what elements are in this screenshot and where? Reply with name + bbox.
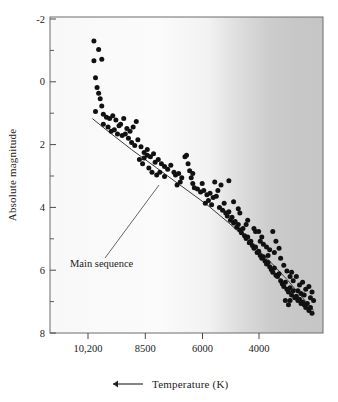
- star-data-point: [134, 119, 139, 124]
- star-data-point: [151, 151, 156, 156]
- star-data-point: [305, 301, 310, 306]
- y-tick-label: 8: [40, 328, 45, 339]
- star-data-point: [165, 167, 170, 172]
- y-tick-label: 2: [40, 139, 45, 150]
- star-data-point: [99, 103, 104, 108]
- star-data-point: [128, 129, 133, 134]
- star-data-point: [288, 298, 293, 303]
- star-data-point: [289, 270, 294, 275]
- x-tick-label: 10,200: [74, 343, 103, 354]
- star-data-point: [291, 288, 296, 293]
- star-data-point: [311, 298, 316, 303]
- star-data-point: [131, 125, 136, 130]
- star-data-point: [278, 256, 283, 261]
- star-data-point: [244, 222, 249, 227]
- star-data-point: [222, 201, 227, 206]
- star-data-point: [258, 239, 263, 244]
- x-tick-label: 6000: [192, 343, 213, 354]
- star-data-point: [226, 178, 231, 183]
- star-data-point: [291, 278, 296, 283]
- y-tick-label: 6: [40, 265, 45, 276]
- star-data-point: [135, 137, 140, 142]
- star-data-point: [201, 188, 206, 193]
- star-data-point: [267, 247, 272, 252]
- y-tick-label: 4: [40, 202, 46, 213]
- star-data-point: [175, 182, 180, 187]
- star-data-point: [237, 211, 242, 216]
- star-data-point: [115, 132, 120, 137]
- star-data-point: [277, 246, 282, 251]
- star-data-point: [106, 125, 111, 130]
- star-data-point: [140, 161, 145, 166]
- star-data-point: [240, 226, 245, 231]
- star-data-point: [91, 38, 96, 43]
- star-data-point: [96, 91, 101, 96]
- x-axis-tick-labels: 10,200 8500 6000 4000: [74, 343, 270, 354]
- star-data-point: [209, 202, 214, 207]
- y-axis-tick-labels: -2 0 2 4 6 8: [36, 14, 46, 339]
- star-data-point: [91, 58, 96, 63]
- star-data-point: [245, 235, 250, 240]
- star-data-point: [300, 280, 305, 285]
- star-data-point: [284, 268, 289, 273]
- star-data-point: [212, 180, 217, 185]
- x-tick-label: 8500: [135, 343, 156, 354]
- star-data-point: [139, 144, 144, 149]
- star-data-point: [219, 182, 224, 187]
- star-data-point: [156, 157, 161, 162]
- star-data-point: [310, 311, 315, 316]
- hr-diagram-figure: -2 0 2 4 6 8 10,200 8500 6000 4000 Absol…: [0, 0, 338, 402]
- star-data-point: [184, 153, 189, 158]
- star-data-point: [93, 109, 98, 114]
- x-tick-label: 4000: [249, 343, 270, 354]
- star-data-point: [126, 136, 131, 141]
- x-axis-ticks: [88, 333, 259, 339]
- y-tick-label: 0: [40, 76, 45, 87]
- star-data-point: [231, 199, 236, 204]
- star-data-point: [272, 250, 277, 255]
- star-data-point: [253, 244, 258, 249]
- star-data-point: [145, 147, 150, 152]
- star-data-point: [281, 263, 286, 268]
- star-data-point: [146, 165, 151, 170]
- main-sequence-label: Main sequence: [70, 258, 134, 269]
- star-data-point: [101, 122, 106, 127]
- star-data-point: [230, 215, 235, 220]
- star-data-point: [118, 122, 123, 127]
- star-data-point: [236, 222, 241, 227]
- star-data-point: [272, 266, 277, 271]
- star-data-point: [266, 253, 271, 258]
- star-data-point: [294, 274, 299, 279]
- x-axis-title: Temperature (K): [152, 378, 229, 391]
- star-data-point: [251, 226, 256, 231]
- star-data-point: [95, 85, 100, 90]
- star-data-point: [98, 96, 103, 101]
- star-data-point: [306, 284, 311, 289]
- star-data-point: [96, 47, 101, 52]
- star-data-point: [145, 153, 150, 158]
- star-data-point: [310, 290, 315, 295]
- temperature-decreasing-arrow-icon: [113, 381, 143, 388]
- star-data-point: [93, 75, 98, 80]
- star-data-point: [273, 239, 278, 244]
- star-data-point: [110, 113, 115, 118]
- star-data-point: [270, 229, 275, 234]
- star-data-point: [112, 127, 117, 132]
- star-data-point: [113, 117, 118, 122]
- star-data-point: [132, 143, 137, 148]
- star-data-point: [137, 157, 142, 162]
- star-data-point: [176, 171, 181, 176]
- y-axis-title: Absolute magnitude: [6, 129, 18, 222]
- star-data-point: [200, 181, 205, 186]
- star-data-point: [190, 171, 195, 176]
- star-data-point: [149, 170, 154, 175]
- y-tick-label: -2: [36, 14, 45, 25]
- star-data-point: [121, 116, 126, 121]
- hr-diagram-chart: -2 0 2 4 6 8 10,200 8500 6000 4000 Absol…: [0, 0, 338, 402]
- star-data-point: [162, 174, 167, 179]
- star-data-point: [208, 191, 213, 196]
- star-data-point: [283, 298, 288, 303]
- star-data-point: [214, 194, 219, 199]
- star-data-point: [308, 305, 313, 310]
- star-data-point: [168, 163, 173, 168]
